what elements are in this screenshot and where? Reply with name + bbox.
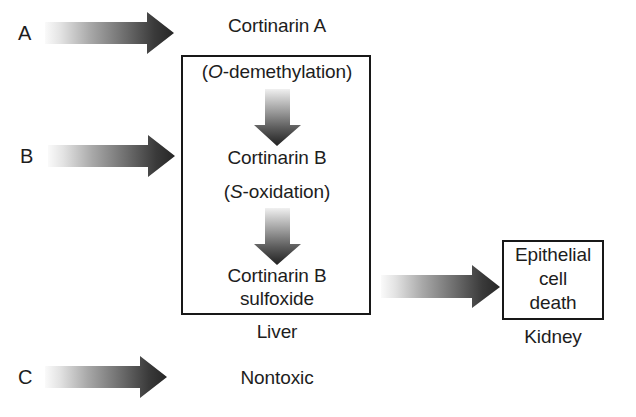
arrow-liver-to-kidney bbox=[381, 265, 500, 308]
arrow-a-to-liver bbox=[45, 12, 174, 54]
s-oxidation-rest: -oxidation) bbox=[243, 181, 331, 202]
arrow-c-to-nontoxic bbox=[45, 356, 167, 398]
arrow-b-to-liver bbox=[48, 135, 175, 177]
italic-s: S bbox=[230, 181, 243, 202]
node-cortinarin-b-sulfoxide-line2: sulfoxide bbox=[240, 287, 314, 310]
node-s-oxidation: (S-oxidation) bbox=[224, 180, 330, 203]
node-cortinarin-a: Cortinarin A bbox=[228, 14, 326, 37]
node-nontoxic: Nontoxic bbox=[240, 366, 313, 389]
italic-o: O bbox=[208, 61, 223, 82]
node-epithelial-line1: Epithelial bbox=[515, 243, 591, 266]
organ-label-liver: Liver bbox=[257, 320, 298, 343]
node-cortinarin-b-sulfoxide-line1: Cortinarin B bbox=[227, 264, 326, 287]
o-demethylation-rest: -demethylation) bbox=[223, 61, 352, 82]
node-cortinarin-b: Cortinarin B bbox=[227, 146, 326, 169]
row-label-a: A bbox=[18, 22, 31, 44]
row-label-c: C bbox=[18, 366, 32, 388]
node-o-demethylation: (O-demethylation) bbox=[202, 60, 352, 83]
node-epithelial-line2: cell bbox=[539, 267, 567, 290]
organ-label-kidney: Kidney bbox=[524, 325, 582, 348]
row-label-b: B bbox=[20, 145, 33, 167]
diagram-canvas: A B C Cortinarin A (O-demethylation) Cor… bbox=[0, 0, 636, 417]
node-epithelial-line3: death bbox=[529, 291, 576, 314]
